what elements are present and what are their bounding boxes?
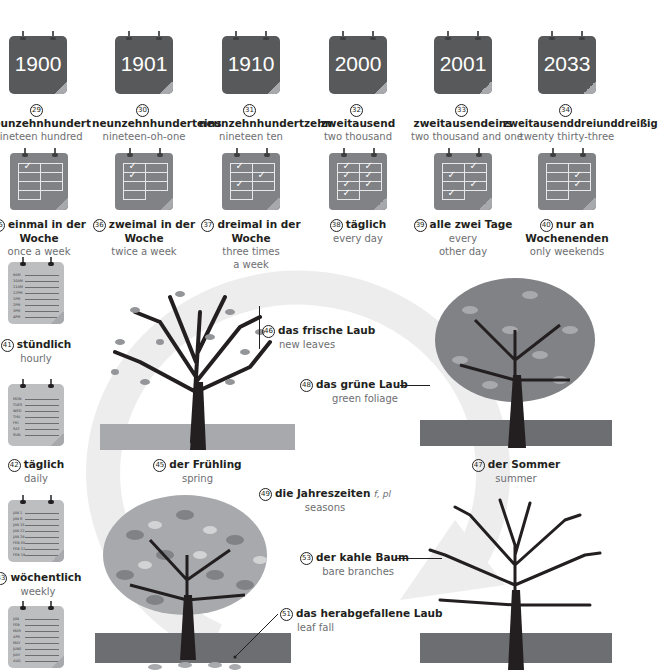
english-term: summer xyxy=(420,472,612,485)
label-spring: 45der Frühling spring xyxy=(100,458,295,485)
german-term: das grüne Laub xyxy=(316,378,408,390)
item-number: 45 xyxy=(153,459,166,472)
label-summer: 47der Sommer summer xyxy=(420,458,612,485)
item-number: 46 xyxy=(262,325,275,338)
spring-tree-icon xyxy=(100,282,300,452)
english-term: bare branches xyxy=(300,565,394,578)
pointer-line xyxy=(230,612,280,662)
label-bare-branches: 53der kahle Baum bare branches xyxy=(300,551,394,578)
german-term: der kahle Baum xyxy=(316,551,409,563)
german-term: der Frühling xyxy=(169,458,241,470)
english-term: leaf fall xyxy=(280,621,443,634)
german-term: das frische Laub xyxy=(278,324,375,336)
pointer-line xyxy=(259,306,260,349)
english-term: spring xyxy=(100,472,295,485)
grammar-note: f, pl xyxy=(374,489,391,499)
german-term: der Sommer xyxy=(488,458,560,470)
item-number: 51 xyxy=(280,608,293,621)
english-term: new leaves xyxy=(262,338,375,351)
english-term: green foliage xyxy=(300,392,398,405)
summer-tree-icon xyxy=(420,270,620,450)
label-new-leaves: 46das frische Laub new leaves xyxy=(262,324,375,351)
item-number: 47 xyxy=(472,459,485,472)
winter-tree-icon xyxy=(420,495,620,672)
item-number: 53 xyxy=(300,552,313,565)
label-green-foliage: 48das grüne Laub green foliage xyxy=(300,378,398,405)
item-number: 48 xyxy=(300,379,313,392)
label-leaf-fall: 51das herabgefallene Laub leaf fall xyxy=(280,607,443,634)
